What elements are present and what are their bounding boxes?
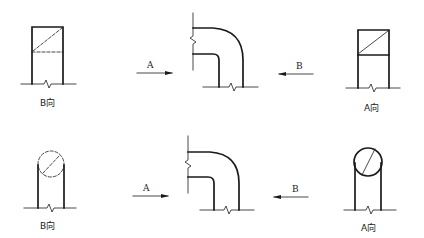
row2-arrow-b-label: B	[292, 184, 299, 194]
row1-arrow-b-label: B	[296, 61, 303, 71]
row1-arrow-a-label: A	[146, 60, 154, 70]
row2-elbow	[185, 136, 254, 214]
row2-right-caption: A向	[361, 222, 376, 233]
row1-left-view-b	[21, 27, 76, 88]
row2-arrow-a-label: A	[142, 183, 150, 193]
row2-left-caption: B向	[40, 220, 55, 231]
pipe-elbow-diagram: B向 A B A向 B向 A B	[0, 0, 424, 238]
row1-right-caption: A向	[364, 102, 379, 113]
row1-left-caption: B向	[40, 97, 55, 108]
row1-right-view-a	[346, 30, 400, 92]
row2-right-view-a	[344, 148, 396, 214]
row2-left-view-b	[24, 151, 76, 212]
row1-elbow	[190, 13, 258, 91]
